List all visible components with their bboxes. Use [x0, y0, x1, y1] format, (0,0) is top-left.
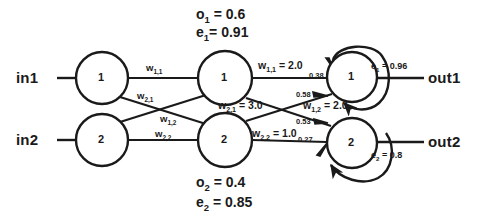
- hidden-bottom-output-stat: o2 = 0.4: [196, 174, 245, 190]
- output-error-1-value: = 0.96: [379, 61, 407, 71]
- activation-value-0-53: 0.53: [296, 117, 311, 126]
- weight-out-1-2-sub: 1,2: [311, 106, 321, 114]
- node-label-L1N2: 2: [98, 133, 104, 145]
- weight-1-1-sub: 1,1: [153, 68, 162, 75]
- weight-out-2-1-sub: 2,1: [226, 106, 236, 114]
- hidden-bottom-error-stat: e2 = 0.85: [196, 194, 252, 210]
- weight-out-1-1-base: w: [258, 59, 266, 71]
- weight-out-1-2-base: w: [303, 99, 311, 111]
- weight-out-2-1-value: = 3.0: [236, 99, 263, 111]
- weight-label-1-1: w1,1: [146, 62, 162, 73]
- weight-label-out-2-2: w2,2 = 1.0: [252, 127, 297, 139]
- hidden-bottom-output-value: 0.4: [226, 174, 245, 190]
- weight-out-2-1-base: w: [218, 99, 226, 111]
- weight-2-2-sub: 2,2: [162, 134, 171, 141]
- arrowhead-into-output-2: [314, 119, 328, 124]
- weight-out-1-2-value: = 2.0: [321, 99, 348, 111]
- weight-label-2-1: w2,1: [137, 90, 153, 101]
- input-label-in1: in1: [16, 69, 38, 86]
- input-label-in2: in2: [16, 131, 38, 148]
- hidden-bottom-error-sub: 2: [204, 202, 209, 213]
- weight-label-out-2-1: w2,1 = 3.0: [218, 99, 263, 111]
- hidden-top-output-stat: o1 = 0.6: [196, 6, 245, 22]
- weight-1-2-sub: 1,2: [167, 119, 176, 126]
- node-label-L3N2: 2: [348, 136, 354, 148]
- weight-label-out-1-2: w1,2 = 2.0: [303, 99, 348, 111]
- hidden-top-output-value: 0.6: [226, 6, 245, 22]
- weight-2-1-sub: 2,1: [144, 96, 153, 103]
- weight-label-out-1-1: w1,1 = 2.0: [258, 59, 303, 71]
- hidden-bottom-output-base: o: [196, 174, 205, 190]
- weight-label-1-2: w1,2: [160, 113, 176, 124]
- output-error-label-2: e2 = 0.8: [371, 150, 402, 160]
- diagram-canvas: 1 2 1 2 1 2 in1 in2 out1 out2 o1 = 0.6 e…: [0, 0, 481, 221]
- activation-value-0-38: 0.38: [309, 71, 324, 80]
- weight-out-1-1-sub: 1,1: [266, 66, 276, 74]
- arrowhead-into-output-1b: [313, 92, 328, 97]
- weight-out-2-2-value: = 1.0: [270, 127, 297, 139]
- weight-out-2-2-sub: 2,2: [260, 134, 270, 142]
- node-label-L1N1: 1: [98, 71, 104, 83]
- hidden-top-error-value: 0.91: [221, 24, 248, 40]
- output-label-out2: out2: [428, 133, 460, 150]
- hidden-top-error-stat: e1= 0.91: [196, 24, 248, 40]
- hidden-bottom-output-sub: 2: [205, 182, 210, 193]
- hidden-top-error-sub: 1: [204, 32, 209, 43]
- weight-out-1-1-value: = 2.0: [276, 59, 303, 71]
- output-error-label-1: e1 = 0.96: [371, 61, 407, 71]
- hidden-top-output-base: o: [196, 6, 205, 22]
- node-label-L2N2: 2: [221, 133, 227, 145]
- node-label-L2N1: 1: [221, 71, 227, 83]
- weight-label-2-2: w2,2: [155, 128, 171, 139]
- hidden-top-error-base: e: [196, 24, 204, 40]
- activation-value-0-27: 0.27: [298, 135, 313, 144]
- weight-out-2-2-base: w: [252, 127, 260, 139]
- output-label-out1: out1: [428, 69, 460, 86]
- output-error-2-value: = 0.8: [379, 150, 402, 160]
- hidden-bottom-error-base: e: [196, 194, 204, 210]
- node-label-L3N1: 1: [348, 70, 354, 82]
- activation-value-0-58: 0.58: [296, 90, 311, 99]
- hidden-bottom-error-value: 0.85: [225, 194, 252, 210]
